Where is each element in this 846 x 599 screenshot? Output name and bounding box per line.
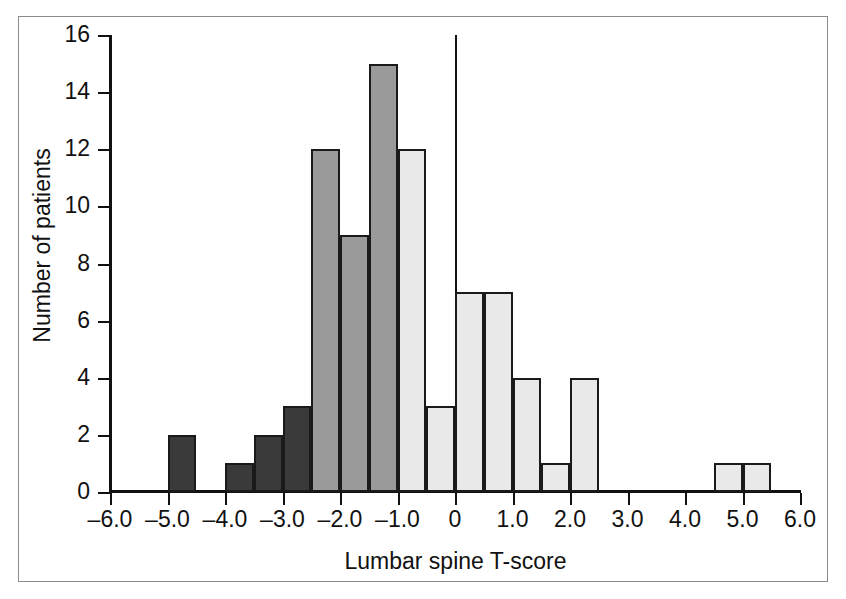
histogram-bar — [743, 463, 772, 492]
x-axis-tick — [168, 493, 170, 505]
y-axis-tick-label: 16 — [30, 23, 90, 46]
histogram-bar — [340, 235, 369, 492]
histogram-bar — [311, 149, 340, 492]
histogram-bar — [541, 463, 570, 492]
figure: 0246810121416 –6.0–5.0–4.0–3.0–2.0–1.001… — [0, 0, 846, 599]
y-axis-tick — [98, 35, 110, 37]
x-axis-tick — [340, 493, 342, 505]
x-axis-tick — [398, 493, 400, 505]
histogram-bar — [426, 406, 455, 492]
histogram-bar — [398, 149, 427, 492]
histogram-bar — [513, 378, 542, 492]
y-axis-title: Number of patients — [29, 46, 56, 446]
x-axis-tick — [743, 493, 745, 505]
x-axis-title: Lumbar spine T-score — [110, 548, 801, 575]
y-axis-tick — [98, 264, 110, 266]
x-axis-tick-label: 6.0 — [755, 508, 845, 531]
y-axis-tick — [98, 149, 110, 151]
x-axis-tick — [110, 493, 112, 505]
histogram-bar — [570, 378, 599, 492]
y-axis-tick — [98, 492, 110, 494]
histogram-bar — [714, 463, 743, 492]
histogram-bar — [168, 435, 197, 492]
x-axis-tick — [628, 493, 630, 505]
histogram-bar — [369, 64, 398, 492]
x-axis-tick — [800, 493, 802, 505]
y-axis-tick-label: 0 — [30, 480, 90, 503]
y-axis-tick — [98, 92, 110, 94]
histogram-bar — [455, 292, 484, 492]
x-axis-tick — [570, 493, 572, 505]
y-axis-tick — [98, 206, 110, 208]
histogram-bar — [254, 435, 283, 492]
histogram-bar — [283, 406, 312, 492]
x-axis-tick — [283, 493, 285, 505]
histogram-bar — [484, 292, 513, 492]
y-axis-tick — [98, 435, 110, 437]
x-axis-tick — [455, 493, 457, 505]
x-axis-tick — [685, 493, 687, 505]
x-axis-tick — [225, 493, 227, 505]
x-axis-tick — [513, 493, 515, 505]
histogram-bar — [225, 463, 254, 492]
y-axis-tick — [98, 378, 110, 380]
y-axis-tick — [98, 321, 110, 323]
